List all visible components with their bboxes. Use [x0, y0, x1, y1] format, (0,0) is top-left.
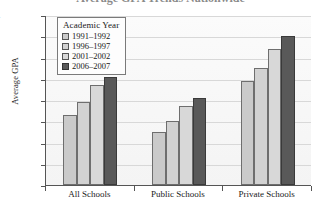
bar — [193, 98, 207, 185]
bar — [281, 36, 295, 185]
legend-swatch-icon — [62, 63, 69, 70]
x-axis-tick-label: Public Schools — [151, 189, 205, 199]
legend-entry: 1991–1992 — [62, 31, 119, 41]
chart-title-clipped: Average GPA Trends Nationwide — [0, 0, 321, 7]
legend-entry-label: 1996–1997 — [72, 42, 110, 51]
legend-swatch-icon — [62, 43, 69, 50]
legend-entry: 2001–2002 — [62, 51, 119, 61]
bar — [254, 68, 268, 185]
bar — [179, 106, 193, 185]
legend-entry-label: 1991–1992 — [72, 32, 110, 41]
bar — [152, 132, 166, 185]
legend-title: Academic Year — [63, 20, 119, 30]
legend-swatch-icon — [62, 33, 69, 40]
bar — [90, 85, 104, 185]
legend-entry: 2006–2007 — [62, 61, 119, 71]
x-axis-tick-mark — [45, 186, 46, 191]
legend-entries: 1991–19921996–19972001–20022006–2007 — [62, 31, 119, 71]
y-axis-title: Average GPA — [10, 33, 20, 129]
legend-entry-label: 2001–2002 — [72, 52, 110, 61]
bar — [241, 81, 255, 185]
legend-entry-label: 2006–2007 — [72, 62, 110, 71]
legend: Academic Year 1991–19921996–19972001–200… — [57, 17, 126, 75]
x-axis-tick-label: Private Schools — [239, 189, 295, 199]
x-axis-tick-mark — [222, 186, 223, 191]
legend-swatch-icon — [62, 53, 69, 60]
bar — [77, 102, 91, 185]
bar — [63, 115, 77, 185]
x-axis-tick-mark — [134, 186, 135, 191]
legend-entry: 1996–1997 — [62, 41, 119, 51]
bar — [104, 77, 118, 185]
chart-figure: Average GPA Trends Nationwide Average GP… — [0, 0, 321, 218]
chart-title: Average GPA Trends Nationwide — [76, 0, 245, 6]
bar — [166, 121, 180, 185]
x-axis-tick-label: All Schools — [68, 189, 110, 199]
x-axis-tick-mark — [311, 186, 312, 191]
bar — [268, 49, 282, 185]
